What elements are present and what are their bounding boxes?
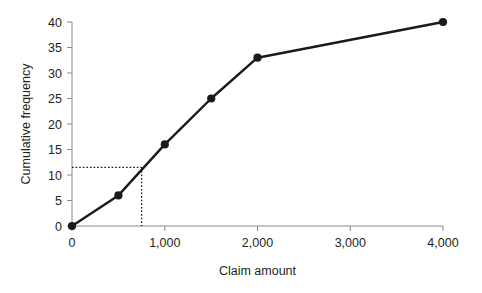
data-point xyxy=(439,18,447,26)
data-point xyxy=(114,191,122,199)
cumulative-frequency-chart: 40 35 30 25 20 15 10 5 0 0 1,000 2,000 3… xyxy=(0,0,482,293)
data-point xyxy=(207,94,215,102)
data-point xyxy=(253,54,261,62)
y-axis-title: Cumulative frequency xyxy=(19,63,33,185)
x-tick-labels: 0 1,000 2,000 3,000 4,000 xyxy=(69,236,459,250)
x-tick-label: 3,000 xyxy=(335,236,366,250)
y-tick-label: 35 xyxy=(48,41,62,55)
cumulative-frequency-line xyxy=(72,22,443,226)
x-tick-label: 2,000 xyxy=(242,236,273,250)
chart-canvas: 40 35 30 25 20 15 10 5 0 0 1,000 2,000 3… xyxy=(0,0,482,293)
median-guide-lines xyxy=(72,167,142,226)
y-tick-label: 20 xyxy=(48,118,62,132)
data-point-markers xyxy=(68,18,447,230)
x-tick-label: 4,000 xyxy=(427,236,458,250)
y-tick-label: 25 xyxy=(48,92,62,106)
y-tick-label: 10 xyxy=(48,169,62,183)
x-tick-label: 1,000 xyxy=(149,236,180,250)
x-axis-title: Claim amount xyxy=(219,264,297,278)
y-tick-label: 0 xyxy=(55,220,62,234)
y-tick-label: 30 xyxy=(48,67,62,81)
y-tick-label: 40 xyxy=(48,16,62,30)
x-axis-ticks xyxy=(72,226,443,231)
y-axis-ticks xyxy=(67,22,72,226)
x-tick-label: 0 xyxy=(69,236,76,250)
data-point xyxy=(68,222,76,230)
data-point xyxy=(161,140,169,148)
y-tick-label: 5 xyxy=(55,194,62,208)
y-tick-labels: 40 35 30 25 20 15 10 5 0 xyxy=(48,16,62,234)
y-tick-label: 15 xyxy=(48,143,62,157)
